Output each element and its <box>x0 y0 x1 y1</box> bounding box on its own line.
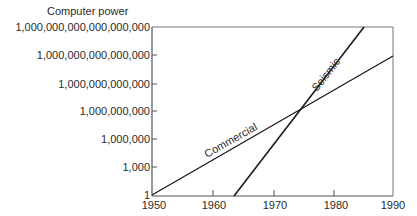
y-tick-label: 1,000,000,000 <box>80 105 150 117</box>
commercial-label: Commercial <box>202 120 259 159</box>
commercial-line <box>152 56 393 195</box>
x-tick-labels: 1950 1960 1970 1980 1990 <box>142 199 405 211</box>
x-tick-label: 1950 <box>142 199 166 211</box>
y-tick-label: 1,000,000,000,000 <box>58 78 150 90</box>
y-ticks <box>152 55 157 167</box>
y-tick-label: 1,000 <box>122 161 150 173</box>
y-tick-label: 1,000,000,000,000,000 <box>37 49 150 61</box>
x-ticks <box>213 190 334 196</box>
x-tick-label: 1980 <box>324 199 348 211</box>
chart: Computer power 1 1,000 1,000,000 1,000,0… <box>0 0 417 216</box>
y-tick-labels: 1 1,000 1,000,000 1,000,000,000 1,000,00… <box>15 21 150 201</box>
x-tick-label: 1960 <box>202 199 226 211</box>
y-tick-label: 1,000,000 <box>101 133 150 145</box>
x-tick-label: 1970 <box>263 199 287 211</box>
y-axis-title: Computer power <box>47 5 129 17</box>
y-tick-label: 1,000,000,000,000,000,000 <box>15 21 150 33</box>
x-tick-label: 1990 <box>381 199 405 211</box>
seismic-line <box>234 27 364 196</box>
